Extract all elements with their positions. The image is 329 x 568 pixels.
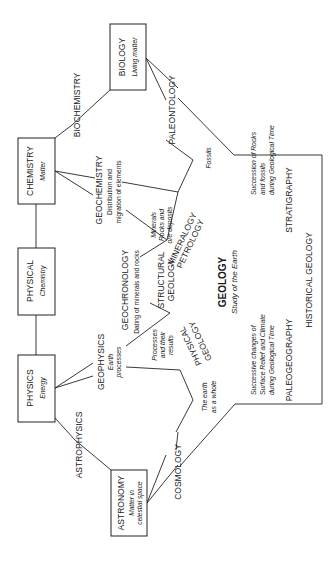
- physics-title: PHYSICS: [25, 369, 35, 407]
- stratigraphy-label: STRATIGRAPHY: [284, 167, 294, 233]
- stratigraphy-desc-2: and fossils: [259, 162, 266, 195]
- stratigraphy-desc-3: during Geological Time: [268, 125, 276, 195]
- astrophysics-label: ASTROPHYSICS: [74, 411, 84, 478]
- paleontology-label: PALEONTOLOGY: [167, 75, 177, 144]
- processes-desc-1: Processes: [151, 329, 158, 361]
- astronomy-subtitle-1: Matter in: [128, 490, 135, 516]
- geophysics-desc-2: processes: [115, 346, 123, 379]
- cosmology-label: COSMOLOGY: [173, 444, 183, 500]
- minerals-desc-1: Minerals: [150, 212, 157, 238]
- paleogeography-desc-2: Surface Relief and Climate: [259, 314, 266, 395]
- box-physics: PHYSICS Energy: [18, 355, 55, 422]
- historical-geology-label: HISTORICAL GEOLOGY: [304, 232, 314, 328]
- earth-whole-desc-2: as a whole: [210, 381, 217, 414]
- biology-title: BIOLOGY: [117, 38, 127, 77]
- astronomy-title: ASTRONOMY: [116, 475, 126, 530]
- box-physical-chemistry: PHYSICAL Chemistry: [18, 248, 55, 315]
- fossils-label: Fossils: [205, 147, 212, 169]
- structural-geology-label-1: STRUCTURAL: [156, 251, 166, 308]
- geology-subtitle: Study of the Earth: [230, 249, 239, 314]
- physical-subtitle: Chemistry: [39, 265, 47, 296]
- geology-relations-diagram: BIOLOGY Living matter CHEMISTRY Matter P…: [0, 0, 329, 568]
- processes-desc-3: results: [167, 334, 174, 355]
- chemistry-title: CHEMISTRY: [25, 146, 35, 196]
- box-biology: BIOLOGY Living matter: [110, 24, 146, 90]
- stratigraphy-desc-1: Succession of Rocks: [250, 131, 257, 195]
- geochemistry-desc-2: migration of elements: [115, 160, 123, 224]
- structural-geology-label-2: GEOLOGY: [166, 258, 176, 301]
- earth-whole-desc-1: The earth: [201, 382, 208, 411]
- geochemistry-label: GEOCHEMISTRY: [94, 155, 104, 224]
- minerals-desc-2: Rocks and: [158, 209, 165, 241]
- geophysics-label: GEOPHYSICS: [96, 334, 106, 391]
- box-astronomy: ASTRONOMY Matter in celestial space: [111, 470, 147, 536]
- link-labels: BIOCHEMISTRY PALEONTOLOGY Fossils GEOCHE…: [72, 72, 217, 499]
- physics-subtitle: Energy: [39, 377, 47, 399]
- geology-title: GEOLOGY: [217, 256, 228, 307]
- biochemistry-label: BIOCHEMISTRY: [72, 72, 82, 137]
- chemistry-subtitle: Matter: [39, 161, 46, 181]
- paleogeography-desc-3: during Geological Time: [268, 325, 276, 395]
- geochronology-desc: Dating of minerals and rocks: [133, 250, 141, 334]
- biology-subtitle: Living matter: [131, 37, 139, 77]
- geophysics-desc-1: Earth: [107, 354, 114, 370]
- geology-region: GEOLOGY Study of the Earth Succession of…: [217, 125, 314, 401]
- minerals-desc-3: ore deposits: [166, 206, 174, 244]
- geochemistry-desc-1: Distribution and: [106, 169, 113, 215]
- box-chemistry: CHEMISTRY Matter: [18, 138, 55, 204]
- paleogeography-label: PALEOGEOGRAPHY: [284, 318, 294, 401]
- paleogeography-desc-1: Successive changes of: [250, 324, 258, 395]
- astronomy-subtitle-2: celestial space: [136, 481, 144, 525]
- processes-desc-2: and their: [159, 331, 166, 358]
- physical-title: PHYSICAL: [25, 260, 35, 302]
- geochronology-label: GEOCHRONOLOGY: [120, 250, 130, 331]
